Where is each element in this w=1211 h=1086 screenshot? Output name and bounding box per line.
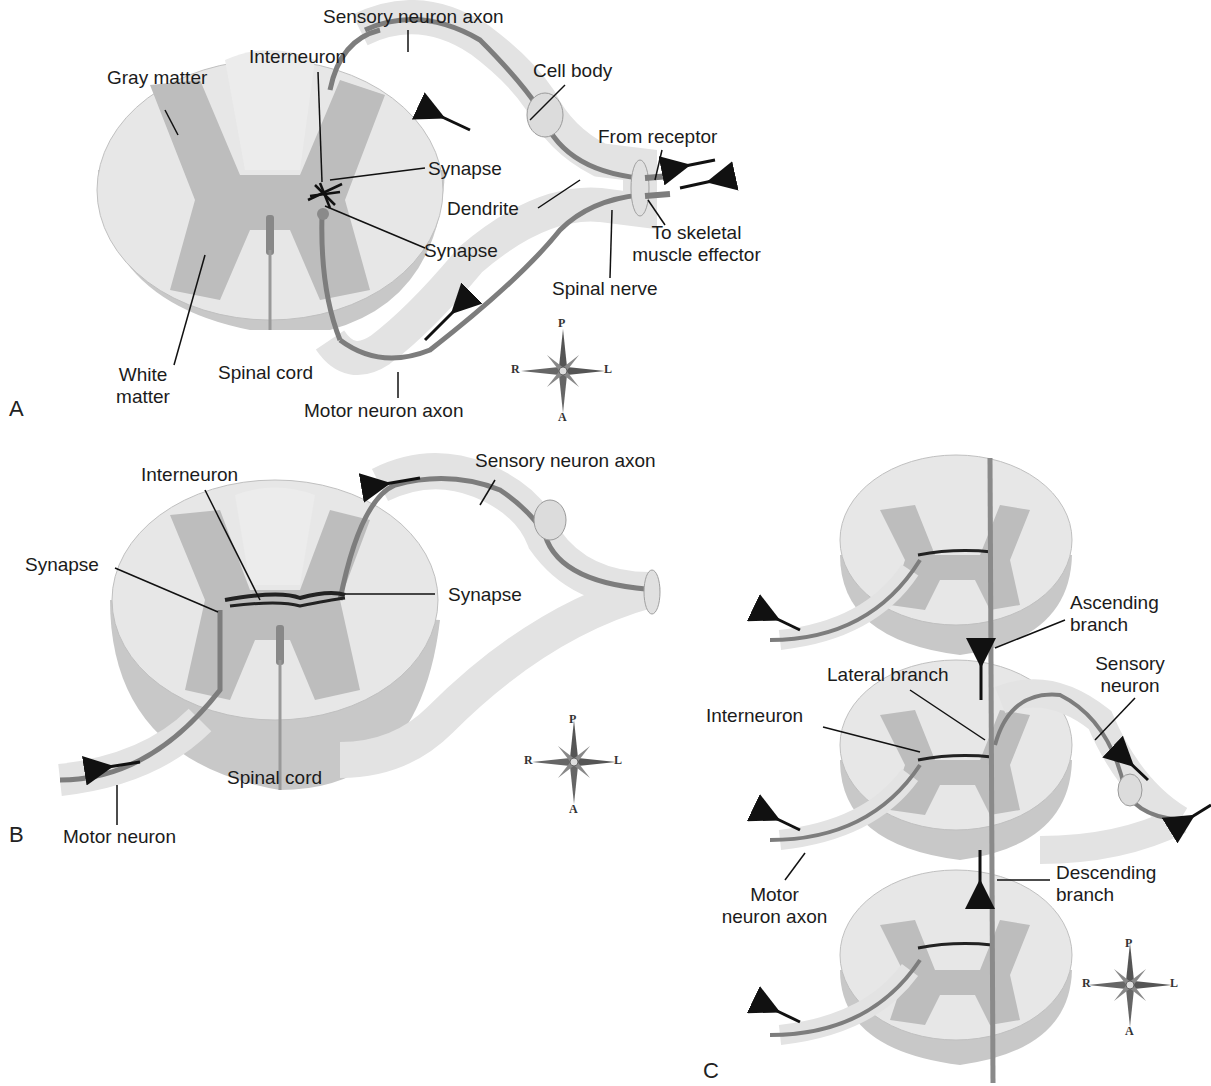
- label-line-2: neuron axon: [712, 906, 837, 928]
- label-white-matter: White matter: [108, 364, 178, 408]
- label-sensory-neuron-c: Sensory neuron: [1085, 653, 1175, 697]
- label-sensory-neuron-axon-b: Sensory neuron axon: [475, 450, 656, 472]
- label-motor-neuron-axon-c: Motor neuron axon: [712, 884, 837, 928]
- label-line-2: muscle effector: [624, 244, 769, 266]
- compass-a-posterior: P: [558, 316, 565, 331]
- compass-a-anterior: A: [558, 410, 567, 425]
- cord-segment-top: [770, 455, 1072, 655]
- compass-c-left: L: [1170, 976, 1178, 991]
- compass-a-left: L: [604, 362, 612, 377]
- label-dendrite: Dendrite: [447, 198, 519, 220]
- label-cell-body: Cell body: [533, 60, 612, 82]
- label-motor-neuron-b: Motor neuron: [63, 826, 176, 848]
- label-spinal-nerve: Spinal nerve: [552, 278, 658, 300]
- label-interneuron-b: Interneuron: [141, 464, 238, 486]
- label-synapse-lower-a: Synapse: [424, 240, 498, 262]
- compass-c-posterior: P: [1125, 936, 1132, 951]
- label-lateral-branch: Lateral branch: [827, 664, 948, 686]
- label-descending-branch: Descending branch: [1056, 862, 1156, 906]
- label-line-1: White: [108, 364, 178, 386]
- label-spinal-cord-a: Spinal cord: [218, 362, 313, 384]
- label-line-2: matter: [108, 386, 178, 408]
- panel-letter-a: A: [9, 396, 24, 422]
- label-interneuron-c: Interneuron: [706, 705, 803, 727]
- diagram-artwork: [0, 0, 1211, 1086]
- label-interneuron-a: Interneuron: [249, 46, 346, 68]
- label-line-1: Descending: [1056, 862, 1156, 884]
- label-sensory-neuron-axon-a: Sensory neuron axon: [323, 6, 504, 28]
- label-line-1: Motor: [712, 884, 837, 906]
- label-synapse-upper-a: Synapse: [428, 158, 502, 180]
- label-synapse-right-b: Synapse: [448, 584, 522, 606]
- panel-letter-c: C: [703, 1058, 719, 1084]
- compass-c-right: R: [1082, 976, 1091, 991]
- panel-c-art: [770, 455, 1211, 1083]
- label-gray-matter: Gray matter: [107, 67, 207, 89]
- compass-b-right: R: [524, 753, 533, 768]
- label-synapse-left-b: Synapse: [25, 554, 99, 576]
- label-line-2: branch: [1070, 614, 1159, 636]
- label-to-skeletal-muscle-effector: To skeletal muscle effector: [624, 222, 769, 266]
- compass-b-left: L: [614, 753, 622, 768]
- reflex-arc-diagram: Sensory neuron axon Interneuron Gray mat…: [0, 0, 1211, 1086]
- label-line-1: Sensory: [1085, 653, 1175, 675]
- label-spinal-cord-b: Spinal cord: [227, 767, 322, 789]
- compass-b-posterior: P: [569, 712, 576, 727]
- label-line-1: Ascending: [1070, 592, 1159, 614]
- label-motor-neuron-axon-a: Motor neuron axon: [304, 400, 464, 422]
- label-line-2: branch: [1056, 884, 1156, 906]
- compass-c-anterior: A: [1125, 1024, 1134, 1039]
- label-from-receptor: From receptor: [598, 126, 717, 148]
- label-line-2: neuron: [1085, 675, 1175, 697]
- label-ascending-branch: Ascending branch: [1070, 592, 1159, 636]
- panel-letter-b: B: [9, 822, 24, 848]
- compass-a-right: R: [511, 362, 520, 377]
- panel-b-art: [60, 471, 660, 825]
- compass-b-anterior: A: [569, 802, 578, 817]
- label-line-1: To skeletal: [624, 222, 769, 244]
